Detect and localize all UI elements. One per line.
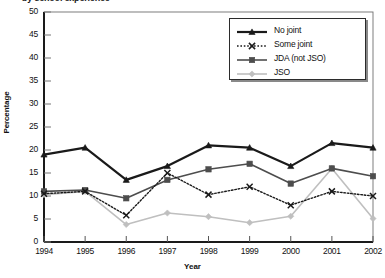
- legend-label: Some joint: [274, 39, 312, 49]
- data-point-marker: [249, 71, 255, 77]
- legend-label: No joint: [274, 25, 301, 35]
- y-axis-tick-label: 25: [12, 121, 38, 131]
- y-axis-tick-label: 30: [12, 98, 38, 108]
- x-axis-tick-label: 1997: [147, 246, 187, 256]
- legend-swatch-square-icon: [235, 52, 269, 64]
- x-axis-tick-label: 1995: [65, 246, 105, 256]
- chart-figure: by school experience Percentage Year 504…: [0, 0, 385, 278]
- legend-item-jda-not-jso[interactable]: JDA (not JSO): [235, 51, 326, 65]
- data-point-marker: [329, 166, 334, 171]
- x-axis-tick-label: 1999: [230, 246, 270, 256]
- y-axis-tick-label: 40: [12, 52, 38, 62]
- x-axis-tick-label: 2001: [312, 246, 352, 256]
- data-point-marker: [124, 196, 129, 201]
- data-point-marker: [370, 174, 375, 179]
- chart-legend: No jointSome jointJDA (not JSO)JSO: [229, 18, 366, 80]
- data-point-marker: [249, 57, 254, 62]
- x-axis-tick-label: 2002: [353, 246, 385, 256]
- data-point-marker: [288, 181, 293, 186]
- legend-swatch-diamond-icon: [235, 66, 269, 78]
- legend-item-some-joint[interactable]: Some joint: [235, 37, 312, 51]
- y-axis-tick-label: 20: [12, 144, 38, 154]
- legend-item-jso[interactable]: JSO: [235, 65, 290, 79]
- x-axis-tick-label: 1996: [106, 246, 146, 256]
- data-point-marker: [206, 167, 211, 172]
- x-axis-tick-label: 2000: [271, 246, 311, 256]
- legend-label: JSO: [274, 67, 290, 77]
- y-axis-tick-label: 0: [12, 236, 38, 246]
- legend-item-no-joint[interactable]: No joint: [235, 23, 301, 37]
- legend-label: JDA (not JSO): [274, 53, 326, 63]
- legend-swatch-x-icon: [235, 38, 269, 50]
- x-axis-tick-label: 1994: [24, 246, 64, 256]
- y-axis-tick-label: 5: [12, 213, 38, 223]
- y-axis-tick-label: 45: [12, 29, 38, 39]
- legend-swatch-triangle-icon: [235, 24, 269, 36]
- y-axis-tick-label: 15: [12, 167, 38, 177]
- y-axis-tick-label: 10: [12, 190, 38, 200]
- data-point-marker: [165, 177, 170, 182]
- y-axis-tick-label: 50: [12, 6, 38, 16]
- x-axis-tick-label: 1998: [189, 246, 229, 256]
- data-point-marker: [247, 161, 252, 166]
- y-axis-tick-label: 35: [12, 75, 38, 85]
